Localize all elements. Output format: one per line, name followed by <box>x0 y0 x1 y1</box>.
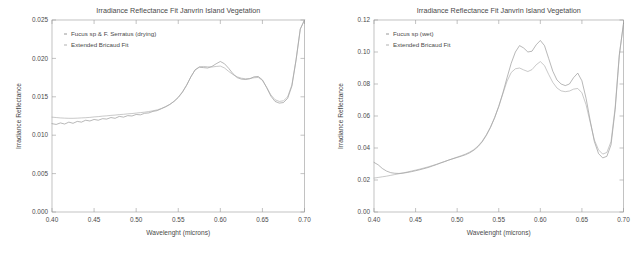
y-axis-label: Irradiance Reflectance <box>337 83 344 149</box>
legend-label-1: Extended Bricaud Fit <box>71 41 129 48</box>
chart-panel-left: Irradiance Reflectance Fit Janvrin Islan… <box>0 0 319 253</box>
x-tick-label: 0.50 <box>130 216 143 223</box>
y-tick-label: 0.02 <box>357 176 370 183</box>
y-tick-label: 0.000 <box>32 208 48 215</box>
chart-panel-right: Irradiance Reflectance Fit Janvrin Islan… <box>319 0 637 253</box>
x-tick-label: 0.50 <box>450 216 463 223</box>
y-tick-label: 0.06 <box>357 112 370 119</box>
x-tick-label: 0.60 <box>534 216 547 223</box>
chart-title: Irradiance Reflectance Fit Janvrin Islan… <box>416 6 580 15</box>
x-axis-label: Wavelenght (microns) <box>146 229 210 237</box>
y-tick-label: 0.08 <box>357 80 370 87</box>
legend-label-0: Fucus sp (wet) <box>393 30 434 37</box>
y-tick-label: 0.04 <box>357 144 370 151</box>
y-axis-label: Irradiance Reflectance <box>15 83 22 149</box>
x-axis-label: Wavelenght (microns) <box>466 229 530 237</box>
legend-label-1: Extended Bricaud Fit <box>393 41 451 48</box>
plot-frame <box>52 20 305 212</box>
x-tick-label: 0.40 <box>367 216 380 223</box>
y-tick-label: 0.025 <box>32 16 48 23</box>
y-tick-label: 0.12 <box>357 16 370 23</box>
x-tick-label: 0.45 <box>409 216 422 223</box>
x-tick-label: 0.70 <box>298 216 311 223</box>
x-tick-label: 0.55 <box>492 216 505 223</box>
legend-label-0: Fucus sp & F. Serratus (drying) <box>71 30 156 37</box>
y-tick-label: 0.015 <box>32 93 48 100</box>
x-tick-label: 0.65 <box>256 216 269 223</box>
x-tick-label: 0.65 <box>575 216 588 223</box>
x-tick-label: 0.45 <box>88 216 101 223</box>
plot-frame <box>374 20 624 212</box>
figure-container: Irradiance Reflectance Fit Janvrin Islan… <box>0 0 637 253</box>
y-tick-label: 0.005 <box>32 170 48 177</box>
x-tick-label: 0.55 <box>172 216 185 223</box>
y-tick-label: 0.10 <box>357 48 370 55</box>
chart-title: Irradiance Reflectance Fit Janvrin Islan… <box>96 6 260 15</box>
y-tick-label: 0.020 <box>32 55 48 62</box>
x-tick-label: 0.60 <box>214 216 227 223</box>
y-tick-label: 0.010 <box>32 131 48 138</box>
x-tick-label: 0.70 <box>617 216 630 223</box>
y-tick-label: 0.00 <box>357 208 370 215</box>
x-tick-label: 0.40 <box>46 216 59 223</box>
